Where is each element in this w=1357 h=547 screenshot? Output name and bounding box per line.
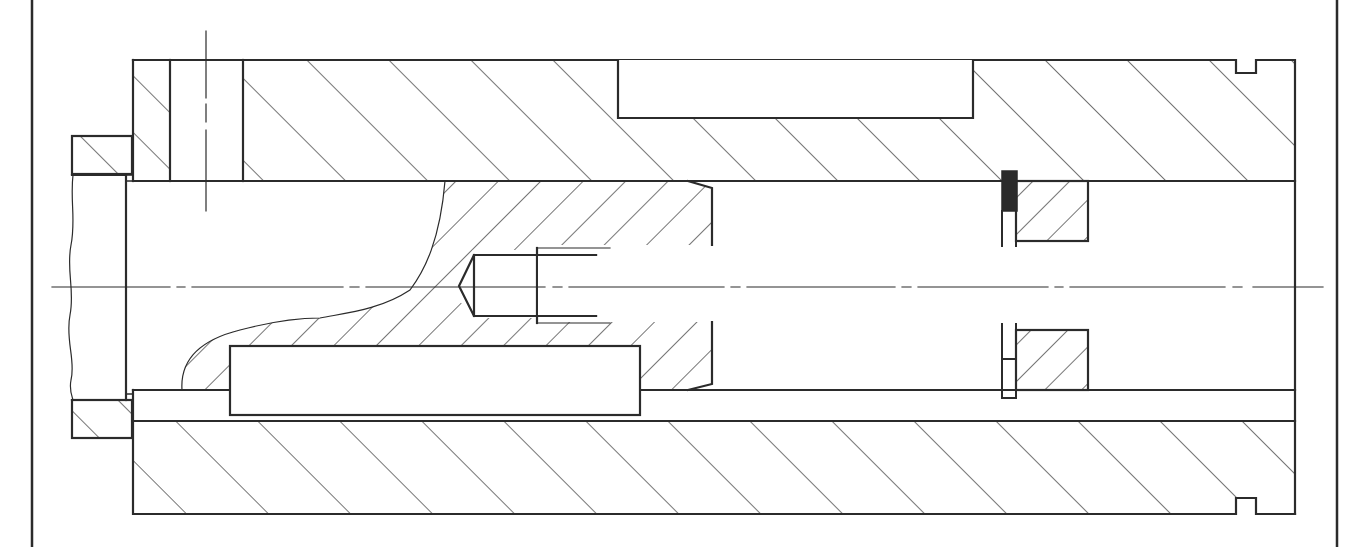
seal — [1002, 171, 1017, 398]
threaded-hole — [459, 248, 610, 323]
ring-seat — [1016, 181, 1088, 390]
cross-section-drawing — [0, 0, 1357, 547]
guide-key — [230, 346, 640, 415]
top-keyway-slot — [618, 60, 973, 118]
